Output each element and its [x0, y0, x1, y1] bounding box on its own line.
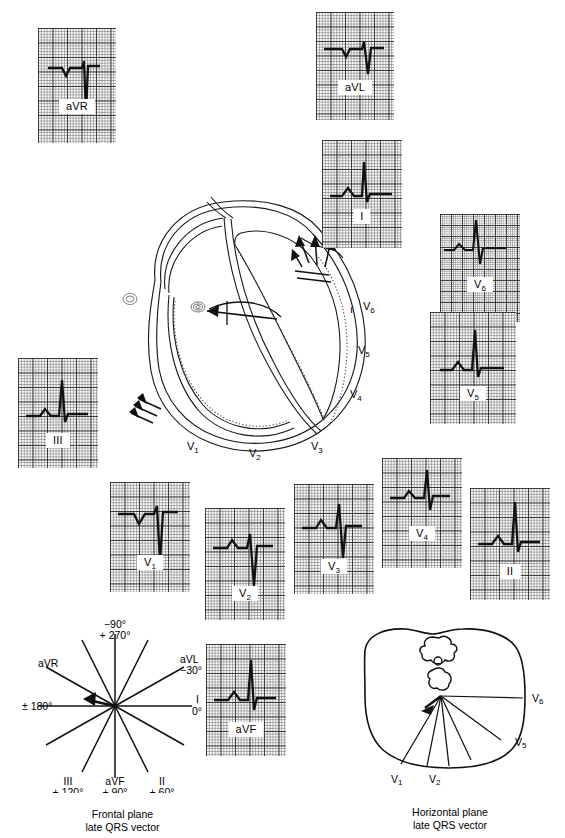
- svg-text:+ 60°: + 60°: [150, 786, 175, 793]
- ecg-label-avr: aVR: [59, 99, 95, 114]
- ecg-strip-iii: III: [18, 358, 98, 468]
- frontal-caption-line1: Frontal plane: [92, 808, 153, 820]
- ecg-label-ii: II: [500, 564, 521, 579]
- ecg-trace-i: [322, 140, 402, 248]
- heart-lead-label-v1: V1: [187, 441, 199, 456]
- svg-text:V1: V1: [391, 773, 403, 787]
- ecg-label-iii: III: [46, 433, 70, 448]
- ecg-trace-v4: [382, 458, 462, 568]
- heart-lead-label-v5: V5: [358, 345, 370, 360]
- figure-canvas: V6 V5 V4 V3 V2 V1 ı aVR aVL: [0, 0, 565, 838]
- svg-text:+ 90°: + 90°: [103, 786, 128, 793]
- svg-text:I: I: [196, 693, 199, 705]
- ecg-strip-v1: V1: [110, 482, 190, 592]
- ecg-trace-v2: [205, 508, 285, 620]
- frontal-plane-caption: Frontal plane late QRS vector: [20, 808, 225, 834]
- svg-text:0°: 0°: [192, 705, 202, 717]
- heart-lead-label-v3: V3: [311, 441, 323, 456]
- ecg-label-v4: V4: [409, 526, 435, 541]
- ecg-strip-ii: II: [470, 488, 550, 600]
- svg-text:+ 120°: + 120°: [53, 786, 84, 793]
- ecg-strip-v3: V3: [294, 484, 374, 594]
- horizontal-plane-diagram: V6 V5 V1 V2 Horizontal plane late QRS ve…: [345, 620, 555, 820]
- svg-text:+ 270°: + 270°: [100, 629, 131, 641]
- horizontal-caption-line2: late QRS vector: [413, 819, 487, 831]
- svg-text:± 180°: ± 180°: [22, 700, 52, 712]
- ecg-strip-v5: V5: [430, 312, 516, 424]
- ecg-label-v5: V5: [460, 386, 486, 401]
- ecg-label-avf: aVF: [229, 722, 264, 737]
- ecg-strip-i: I: [322, 140, 402, 248]
- svg-text:−30°: −30°: [180, 664, 202, 676]
- frontal-caption-line2: late QRS vector: [85, 821, 159, 833]
- ecg-strip-avl: aVL: [316, 12, 394, 120]
- ecg-strip-v2: V2: [205, 508, 285, 620]
- heart-lead-label-v2: V2: [249, 448, 261, 463]
- ecg-label-v3: V3: [321, 559, 347, 574]
- ecg-trace-ii: [470, 488, 550, 600]
- ecg-trace-v6: [440, 214, 520, 322]
- horizontal-plane-caption: Horizontal plane late QRS vector: [345, 806, 555, 832]
- ecg-trace-avl: [316, 12, 394, 120]
- ecg-trace-v5: [430, 312, 516, 424]
- ecg-label-v6: V6: [467, 277, 493, 292]
- svg-text:aVR: aVR: [38, 657, 59, 669]
- ecg-label-i: I: [353, 209, 370, 224]
- svg-text:V2: V2: [429, 773, 441, 787]
- ecg-label-v2: V2: [232, 586, 258, 601]
- svg-text:V6: V6: [532, 692, 544, 706]
- ecg-strip-v4: V4: [382, 458, 462, 568]
- heart-lead-label-v4: V4: [350, 389, 362, 404]
- ecg-label-avl: aVL: [338, 80, 372, 95]
- ecg-label-v1: V1: [137, 555, 163, 570]
- ecg-trace-avr: [38, 28, 116, 143]
- ecg-strip-v6: V6: [440, 214, 520, 322]
- ecg-trace-iii: [18, 358, 98, 468]
- ecg-trace-v3: [294, 484, 374, 594]
- ecg-strip-avr: aVR: [38, 28, 116, 143]
- ecg-trace-v1: [110, 482, 190, 592]
- heart-lead-label-v6: V6: [363, 301, 375, 316]
- frontal-plane-diagram: −90° + 270° aVR aVL −30° I 0° ± 180° III…: [20, 618, 225, 823]
- svg-text:V5: V5: [515, 736, 527, 750]
- heart-tick-mark: ı: [350, 303, 353, 315]
- horizontal-caption-line1: Horizontal plane: [412, 806, 488, 818]
